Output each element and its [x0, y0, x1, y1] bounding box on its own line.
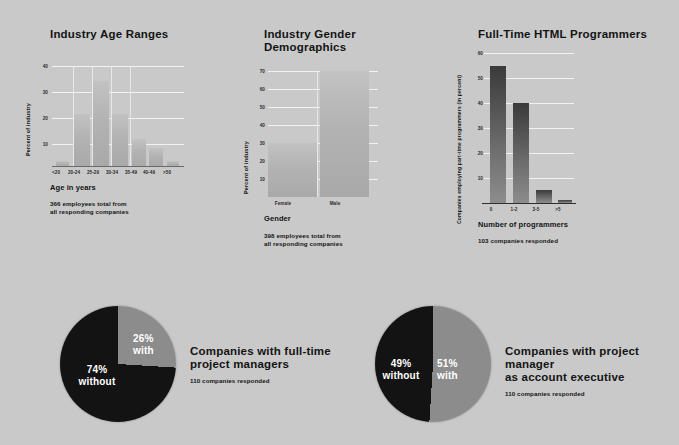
pie-slice-with-percent: 26%	[133, 333, 154, 345]
x-tick-gt5: >5	[545, 207, 571, 212]
x-tick-3: 30-34	[102, 170, 122, 175]
chart-industry-gender-demographics: Industry Gender Demographics Percent of …	[258, 28, 438, 258]
x-tick-2: 25-29	[83, 170, 103, 175]
pie-slice-with-label: 26% with	[133, 333, 154, 356]
y-tick-50: 50	[249, 105, 265, 110]
caption-line-1: 366 employees total from	[50, 200, 129, 208]
caption-line-1: 398 employees total from	[264, 232, 343, 240]
y-tick-30: 30	[32, 90, 48, 95]
gridline	[484, 53, 574, 54]
bar	[132, 139, 146, 166]
pie-slice-with-word: with	[437, 370, 458, 382]
y-tick-10: 10	[32, 142, 48, 147]
pie-slice-with-label: 51% with	[437, 358, 458, 381]
chart-title-line-2: Demographics	[264, 41, 346, 54]
y-tick-20: 20	[32, 116, 48, 121]
x-axis-line	[52, 166, 184, 167]
pie-slice-without-word: without	[373, 370, 429, 382]
pie-caption: 110 companies responded	[190, 377, 331, 384]
plot-area	[484, 53, 574, 203]
chart-full-time-html-programmers: Full-Time HTML Programmers Companies emp…	[470, 28, 670, 268]
y-tick-40: 40	[467, 101, 483, 106]
gridline	[52, 92, 184, 93]
x-axis-title: Age in years	[50, 183, 96, 192]
caption: 103 companies responded	[478, 237, 558, 245]
pie-title-line-2: as account executive	[505, 371, 675, 384]
bar	[268, 143, 317, 197]
pie-slice-without-label: 49% without	[373, 358, 429, 381]
bar	[112, 114, 128, 166]
y-tick-60: 60	[249, 87, 265, 92]
y-tick-40: 40	[249, 123, 265, 128]
pie-title-line-1: Companies with project manager	[505, 345, 675, 371]
y-tick-50: 50	[467, 76, 483, 81]
chart-title: Full-Time HTML Programmers	[478, 28, 647, 41]
pie-slice-without-percent: 74%	[67, 364, 127, 376]
chart-project-manager-as-account-executive: 51% with 49% without Companies with proj…	[375, 300, 675, 430]
y-tick-40: 40	[32, 64, 48, 69]
caption-line-2: all responding companies	[50, 208, 129, 216]
x-tick-5: 40-49	[139, 170, 159, 175]
y-tick-10: 10	[467, 176, 483, 181]
pie-slice-with-word: with	[133, 345, 154, 357]
bar-separator	[92, 66, 93, 166]
bar	[149, 148, 163, 166]
bar	[536, 190, 552, 203]
plot-area	[268, 71, 378, 197]
x-tick-female: Female	[264, 201, 302, 206]
pie-title-line-2: project managers	[190, 358, 331, 371]
bar	[74, 114, 90, 166]
y-tick-70: 70	[249, 69, 265, 74]
y-tick-10: 10	[249, 177, 265, 182]
x-tick-1: 20-24	[64, 170, 84, 175]
y-axis-title: Percent of industry	[25, 103, 31, 156]
x-axis-title: Number of programmers	[478, 220, 568, 229]
chart-full-time-project-managers: 26% with 74% without Companies with full…	[60, 300, 340, 430]
pie-slice-without-word: without	[67, 376, 127, 388]
gridline	[52, 66, 184, 67]
x-tick-6: >50	[157, 170, 177, 175]
pie-slice-without-label: 74% without	[67, 364, 127, 387]
bar-separator	[111, 66, 112, 166]
plot-area	[52, 66, 184, 166]
bar-separator	[73, 66, 74, 166]
chart-title-line-1: Industry Gender	[264, 28, 356, 41]
bar	[93, 81, 109, 166]
chart-industry-age-ranges: Industry Age Ranges Percent of industry …	[44, 28, 234, 228]
y-axis-title: Companies employing part-time programmer…	[456, 75, 462, 224]
x-tick-4: 35-49	[121, 170, 141, 175]
y-axis-title: Percent of industry	[243, 141, 249, 194]
x-tick-0: <20	[46, 170, 66, 175]
bar	[490, 66, 506, 203]
pie-title-line-1: Companies with full-time	[190, 345, 331, 358]
y-tick-30: 30	[467, 126, 483, 131]
chart-title: Industry Age Ranges	[50, 28, 168, 41]
bar-separator	[130, 66, 131, 166]
x-axis-title: Gender	[264, 214, 291, 223]
caption-line-2: all responding companies	[264, 240, 343, 248]
bar	[513, 103, 529, 203]
bar-separator	[317, 71, 318, 197]
pie-slice-with-percent: 51%	[437, 358, 458, 370]
x-tick-male: Male	[316, 201, 354, 206]
bar	[320, 71, 369, 197]
x-axis-line	[482, 203, 576, 204]
pie-caption: 110 companies responded	[505, 390, 675, 397]
y-tick-60: 60	[467, 51, 483, 56]
pie-slice-without-percent: 49%	[373, 358, 429, 370]
y-tick-30: 30	[249, 141, 265, 146]
y-tick-20: 20	[467, 151, 483, 156]
y-tick-20: 20	[249, 159, 265, 164]
